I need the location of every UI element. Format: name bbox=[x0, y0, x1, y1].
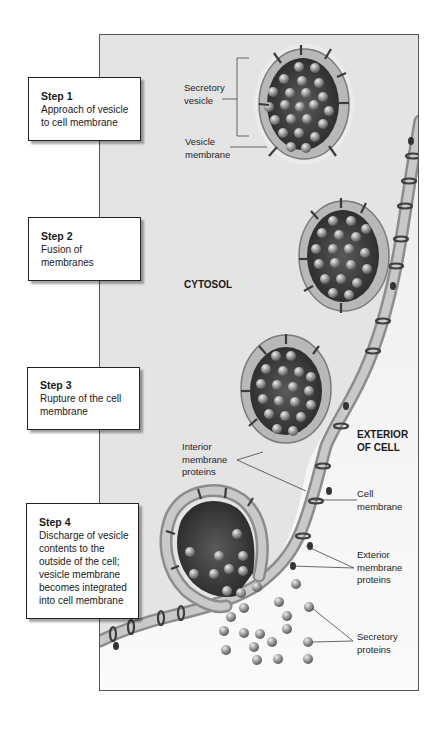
step-1-title: Step 1 bbox=[41, 90, 140, 103]
step-2-title: Step 2 bbox=[41, 230, 140, 243]
vesicle-step-3 bbox=[241, 334, 331, 443]
step-3-box: Step 3 Rupture of the cell membrane bbox=[27, 367, 140, 430]
step-1-description: Approach of vesicle to cell membrane bbox=[41, 103, 140, 129]
exterior-of-cell-label: EXTERIOR OF CELL bbox=[357, 428, 408, 454]
step-2-box: Step 2 Fusion of membranes bbox=[28, 217, 141, 281]
cell-illustration bbox=[100, 35, 419, 691]
interior-membrane-proteins-label: Interior membrane proteins bbox=[182, 441, 227, 479]
vesicle-membrane-label: Vesicle membrane bbox=[185, 136, 230, 161]
step-3-description: Rupture of the cell membrane bbox=[40, 392, 139, 418]
step-1-box: Step 1 Approach of vesicle to cell membr… bbox=[28, 77, 141, 141]
cell-membrane-label: Cell membrane bbox=[357, 488, 402, 513]
secretory-proteins-label: Secretory proteins bbox=[357, 631, 398, 656]
step-4-description: Discharge of vesicle contents to the out… bbox=[39, 529, 138, 607]
step-2-description: Fusion of membranes bbox=[41, 243, 140, 269]
illustration-frame bbox=[99, 34, 419, 691]
step-3-title: Step 3 bbox=[40, 379, 139, 392]
step-4-box: Step 4 Discharge of vesicle contents to … bbox=[26, 503, 139, 619]
cytosol-label: CYTOSOL bbox=[184, 278, 232, 291]
exocytosis-figure: Step 1 Approach of vesicle to cell membr… bbox=[0, 0, 441, 729]
step-4-title: Step 4 bbox=[39, 516, 138, 529]
secretory-vesicle-label: Secretory vesicle bbox=[184, 82, 225, 107]
vesicle-step-1 bbox=[254, 44, 354, 164]
exterior-membrane-proteins-label: Exterior membrane proteins bbox=[357, 549, 402, 587]
